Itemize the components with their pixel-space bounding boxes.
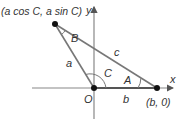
angle-A-arc xyxy=(138,78,141,88)
vertex-right-point xyxy=(154,85,160,91)
angle-B-label: B xyxy=(71,32,78,44)
y-axis-label: y xyxy=(85,4,93,16)
x-axis-label: x xyxy=(169,73,176,85)
side-c-label: c xyxy=(114,46,120,58)
angle-C-label: C xyxy=(104,67,112,79)
origin-label: O xyxy=(84,93,93,105)
side-a-label: a xyxy=(66,57,72,69)
angle-A-label: A xyxy=(123,74,131,86)
origin-point xyxy=(91,85,97,91)
vertex-top-point xyxy=(52,21,58,27)
vertex-right-label: (b, 0) xyxy=(146,96,171,108)
vertex-top-label: (a cos C, a sin C) xyxy=(1,5,82,17)
triangle-coordinate-diagram: (a cos C, a sin C) (b, 0) O x y a b c A … xyxy=(0,0,184,119)
side-b-label: b xyxy=(123,93,129,105)
angle-B-arc xyxy=(62,30,66,34)
